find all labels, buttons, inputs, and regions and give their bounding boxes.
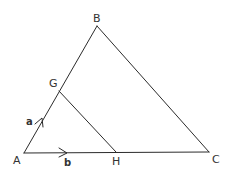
label-g-point: G — [49, 77, 58, 90]
segment-ac — [24, 152, 209, 153]
segment-gh — [59, 91, 116, 152]
segment-ab — [24, 26, 97, 153]
label-vector-b: b — [64, 157, 71, 168]
label-c-vertex: C — [212, 153, 220, 166]
label-b-vertex: B — [93, 12, 101, 25]
triangle-diagram: B G A H C a b — [0, 0, 228, 172]
label-a-vertex: A — [13, 154, 21, 167]
label-vector-a: a — [26, 116, 33, 127]
label-h-point: H — [112, 155, 120, 168]
segment-bc — [97, 26, 209, 152]
